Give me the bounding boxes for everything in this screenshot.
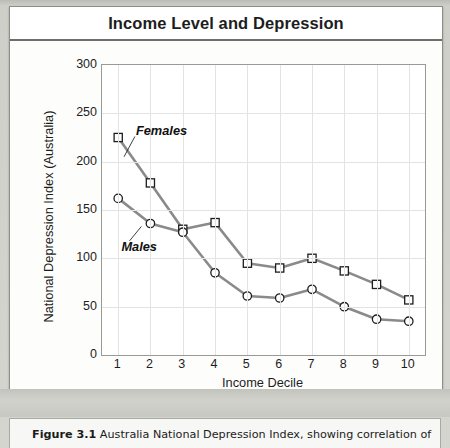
y-axis-tick-label: 250 bbox=[55, 105, 97, 119]
chart-canvas: National Depression Index (Australia) 30… bbox=[10, 41, 442, 389]
figure-caption-label: Figure 3.1 bbox=[32, 428, 96, 441]
figure-caption: Figure 3.1 Australia National Depression… bbox=[32, 427, 424, 442]
x-axis-ticks: 12345678910 bbox=[101, 357, 424, 377]
x-axis-tick-label: 7 bbox=[299, 357, 323, 371]
x-axis-tick-label: 6 bbox=[267, 357, 291, 371]
chart-figure: Income Level and Depression National Dep… bbox=[9, 6, 443, 390]
y-axis-tick-label: 150 bbox=[55, 202, 97, 216]
figure-plate: Income Level and Depression National Dep… bbox=[0, 0, 450, 448]
series-annotation-females: Females bbox=[136, 123, 187, 138]
y-axis-tick-label: 200 bbox=[55, 154, 97, 168]
y-axis-tick-label: 0 bbox=[55, 347, 97, 361]
y-axis-tick-label: 50 bbox=[55, 299, 97, 313]
y-axis-ticks: 300250200150100500 bbox=[51, 64, 97, 354]
figure-caption-box: Figure 3.1 Australia National Depression… bbox=[9, 418, 441, 448]
gridline-horizontal bbox=[102, 258, 425, 259]
x-axis-tick-label: 10 bbox=[396, 357, 420, 371]
plate-gap bbox=[0, 389, 450, 417]
plot-area: FemalesMales bbox=[101, 64, 426, 356]
gridline-horizontal bbox=[102, 162, 425, 163]
gridline-horizontal bbox=[102, 113, 425, 114]
page-title: Income Level and Depression bbox=[108, 14, 344, 33]
y-axis-tick-label: 300 bbox=[55, 57, 97, 71]
x-axis-tick-label: 4 bbox=[202, 357, 226, 371]
series-line-males bbox=[118, 198, 409, 321]
y-axis-label-wrap: National Depression Index (Australia) bbox=[18, 69, 42, 349]
x-axis-tick-label: 2 bbox=[137, 357, 161, 371]
x-axis-tick-label: 8 bbox=[331, 357, 355, 371]
gridline-horizontal bbox=[102, 307, 425, 308]
x-axis-tick-label: 1 bbox=[105, 357, 129, 371]
x-axis-tick-label: 3 bbox=[170, 357, 194, 371]
gridline-horizontal bbox=[102, 210, 425, 211]
series-annotation-males: Males bbox=[121, 239, 157, 254]
x-axis-tick-label: 5 bbox=[234, 357, 258, 371]
y-axis-tick-label: 100 bbox=[55, 250, 97, 264]
figure-caption-text: Australia National Depression Index, sho… bbox=[100, 428, 431, 441]
x-axis-tick-label: 9 bbox=[364, 357, 388, 371]
chart-title-bar: Income Level and Depression bbox=[10, 7, 442, 41]
